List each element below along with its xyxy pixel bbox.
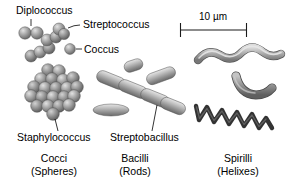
streptococcus-label: Streptococcus [83,18,150,30]
group-subtitle-spirilli: (Helixes) [217,165,258,177]
group-titles: Cocci (Spheres) Bacilli (Rods) Spirilli … [31,152,259,177]
diplococcus-label: Diplococcus [16,4,73,16]
group-subtitle-cocci: (Spheres) [31,165,77,177]
group-title-spirilli: Spirilli [224,152,252,164]
coccus-label: Coccus [84,43,119,55]
group-title-bacilli: Bacilli [121,152,148,164]
staphylococcus-label: Staphylococcus [17,131,91,143]
bacillus-single-flat [93,104,129,116]
group-title-cocci: Cocci [41,152,67,164]
coccus-shape [65,44,76,55]
scale-bar-label: 10 µm [199,11,227,22]
figure-canvas: 10 µm Diplococcus Streptococcus [0,0,301,185]
group-subtitle-bacilli: (Rods) [119,165,151,177]
bacteria-morphology-figure: 10 µm Diplococcus Streptococcus [0,0,301,185]
streptobacillus-label: Streptobacillus [110,131,179,143]
